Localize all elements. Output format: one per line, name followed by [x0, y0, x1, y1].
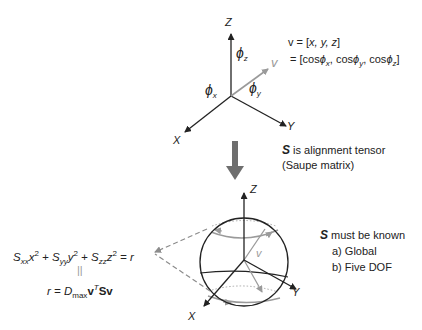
sphere-z-label: Z [250, 183, 257, 196]
y-axis [231, 96, 286, 126]
phi-y-label: ϕy [249, 82, 261, 100]
requirement-item-five-dof: b) Five DOF [332, 261, 392, 274]
equivalence-sign: || [77, 264, 83, 277]
top-v-label: v [271, 56, 278, 69]
dipolar-equation: r = DmaxvTSv [47, 281, 113, 302]
requirements-title: S must be known [320, 229, 405, 242]
alignment-equation: Sxxx2 + Syyy2 + Szzz2 = r [13, 247, 134, 268]
phi-z-label: ϕz [236, 47, 248, 65]
sphere-x-axis [204, 260, 244, 306]
dashed-connectors [155, 229, 210, 291]
sphere-y-label: Y [292, 286, 299, 299]
sphere [200, 193, 296, 306]
top-z-label: Z [225, 16, 232, 29]
sphere-v-label: v [256, 247, 262, 260]
vector-definition-line2: = [cosϕx, cosϕy, cosϕz] [290, 53, 400, 70]
requirement-item-global: a) Global [332, 245, 377, 258]
vector-definition-line1: v = [x, y, z] [288, 36, 340, 49]
tensor-note-line2: (Saupe matrix) [282, 159, 354, 172]
top-x-label: X [173, 134, 180, 147]
top-y-label: Y [287, 120, 294, 133]
phi-x-label: ϕx [205, 84, 217, 102]
sphere-x-label: X [188, 310, 195, 323]
down-arrow-icon [226, 141, 244, 180]
tensor-note-line1: S is alignment tensor [282, 144, 385, 157]
